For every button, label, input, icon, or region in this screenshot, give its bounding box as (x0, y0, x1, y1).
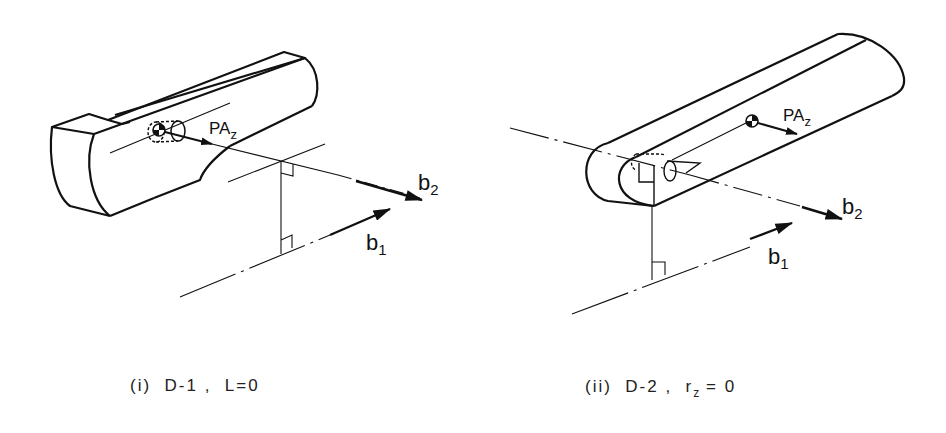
b1-label-i: b1 (366, 230, 387, 258)
b2-label-i: b2 (418, 170, 439, 198)
right-angle-mark-upper-i (281, 164, 293, 176)
force-label-ii: PAz (783, 106, 811, 129)
b1-vector-arrow-ii (750, 223, 792, 239)
axis-line-b2-solid-ii (510, 128, 690, 175)
b1-label-ii: b1 (768, 244, 789, 272)
arm-body-ii (586, 34, 904, 206)
axis-line-b2-solid-i (212, 144, 338, 175)
axis-line-b2-dashdot-ii (690, 175, 800, 206)
center-of-mass-icon-ii (746, 115, 758, 127)
b1-vector-arrow-i (330, 209, 390, 235)
caption-figure-ii: (ii) D-2 , rz = 0 (585, 377, 736, 400)
center-of-mass-icon-i (153, 124, 165, 136)
pin-ii (632, 154, 701, 206)
b2-vector-arrow-ii (802, 207, 842, 219)
force-arrow-i (165, 132, 212, 144)
b2-label-ii: b2 (842, 194, 863, 222)
b2-vector-arrow-i (356, 181, 422, 200)
force-label-i: PAz (209, 119, 237, 142)
arm-centerline-ii (672, 120, 752, 160)
right-angle-mark-lower-i (281, 235, 292, 248)
right-angle-mark-ii (652, 262, 665, 275)
diagram-stage: PAz b2 b1 (0, 0, 946, 433)
cross-line-upper-i (228, 144, 325, 182)
figure-i: PAz b2 b1 (51, 52, 439, 297)
axis-line-b1-dashdot-ii (572, 247, 750, 314)
axis-line-b1-dashdot-i (180, 235, 330, 297)
figure-ii: b2 PAz b1 (510, 34, 904, 314)
caption-figure-i: (i) D-1 , L=0 (130, 376, 260, 395)
